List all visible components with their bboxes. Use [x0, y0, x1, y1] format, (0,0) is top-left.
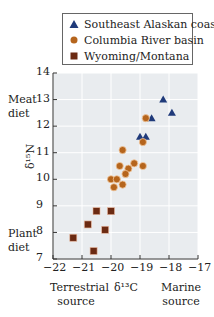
data-point-circle — [119, 181, 126, 188]
data-point-circle — [139, 162, 146, 169]
x-axis-label: δ¹³C — [114, 281, 138, 295]
x-tick-label: −19 — [130, 261, 153, 274]
x-tick-label: −18 — [159, 261, 182, 274]
data-point-square — [70, 234, 77, 241]
data-point-square — [93, 208, 100, 215]
data-point-square — [108, 208, 115, 215]
data-point-circle — [131, 160, 138, 167]
y-tick-label: 11 — [36, 145, 50, 158]
data-point-circle — [110, 184, 117, 191]
data-point-circle — [139, 138, 146, 145]
x-tick-label: −20 — [101, 261, 124, 274]
data-point-circle — [122, 170, 129, 177]
meat-diet-annotation: Meatdiet — [8, 93, 37, 121]
data-point-square — [90, 248, 97, 255]
y-tick-label: 14 — [36, 65, 50, 78]
x-tick-label: −17 — [188, 261, 211, 274]
data-point-square — [84, 221, 91, 228]
x-tick-label: −22 — [43, 261, 66, 274]
data-point-circle — [113, 176, 120, 183]
data-point-circle — [119, 146, 126, 153]
x-tick-label: −21 — [72, 261, 95, 274]
y-tick-label: 10 — [36, 171, 50, 184]
data-point-square — [102, 226, 109, 233]
y-tick-label: 8 — [36, 224, 43, 237]
terrestrial-source-annotation: Terrestrialsource — [50, 281, 102, 309]
data-point-circle — [116, 162, 123, 169]
y-tick-label: 9 — [36, 198, 43, 211]
y-axis-label: δ¹⁵N — [24, 144, 37, 169]
y-tick-label: 7 — [36, 251, 43, 264]
y-tick-label: 13 — [36, 92, 50, 105]
plant-diet-annotation: Plantdiet — [8, 227, 37, 255]
y-tick-label: 12 — [36, 118, 50, 131]
marine-source-annotation: Marinesource — [160, 281, 202, 309]
data-point-circle — [142, 115, 149, 122]
